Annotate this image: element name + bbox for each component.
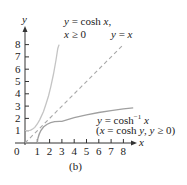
figure-caption: (b) (69, 161, 82, 172)
x-tick-label: 1 (35, 146, 41, 157)
x-tick-label: 7 (108, 146, 114, 157)
y-tick-label: 4 (15, 88, 21, 99)
x-tick-label: 8 (121, 146, 127, 157)
x-tick-label: 3 (59, 146, 65, 157)
cosh-annotation-line1: y = cosh x, (64, 16, 111, 27)
y-tick-label: 1 (15, 125, 21, 136)
y-tick-label: 5 (15, 76, 21, 87)
x-tick-label: 6 (96, 146, 102, 157)
acosh-annotation-line2: (x = cosh y, y ≥ 0) (96, 125, 175, 136)
y-tick-label: 6 (15, 64, 21, 75)
x-tick-label: 2 (47, 146, 53, 157)
cosh-accurate (0, 0, 187, 185)
origin-label: 0 (14, 146, 20, 157)
x-tick-label: 4 (71, 146, 77, 157)
y-tick-label: 3 (15, 101, 21, 112)
y-axis-label: y (22, 14, 27, 25)
x-tick-label: 5 (84, 146, 90, 157)
x-axis-label: x (139, 137, 144, 148)
y-tick-label: 7 (15, 51, 21, 62)
y-tick-label: 8 (15, 39, 21, 50)
identity-annotation: y = x (111, 29, 133, 40)
cosh-annotation-line2: x ≥ 0 (64, 29, 86, 40)
y-tick-label: 2 (15, 113, 21, 124)
series-cosh-curve-accurate (25, 45, 59, 131)
